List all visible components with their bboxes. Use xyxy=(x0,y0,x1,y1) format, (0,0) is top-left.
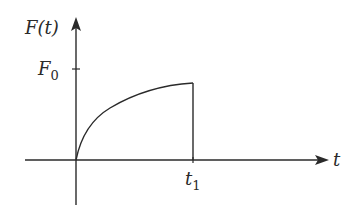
y-axis-label: F(t) xyxy=(25,19,59,37)
f0-label-main: F xyxy=(38,58,51,79)
x-axis-label: t xyxy=(333,151,340,169)
f0-label: F0 xyxy=(38,60,59,78)
x-axis-label-text: t xyxy=(333,149,340,170)
force-curve xyxy=(76,83,193,160)
t1-label-sub: 1 xyxy=(192,178,200,193)
diagram-canvas: F(t) F0 t1 t xyxy=(0,0,353,210)
t1-label: t1 xyxy=(185,170,201,188)
f0-label-sub: 0 xyxy=(51,68,59,83)
y-axis-label-text: F(t) xyxy=(25,17,59,38)
